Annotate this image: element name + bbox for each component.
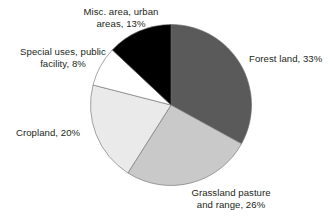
- pie-label-special-line1: Special uses, public: [20, 46, 106, 57]
- pie-chart: Misc. area, urban areas, 13% Special use…: [0, 0, 330, 222]
- pie-label-special-line2: facility, 8%: [40, 58, 86, 69]
- pie-label-misc-line1: Misc. area, urban: [84, 6, 159, 17]
- pie-label-misc-line2: areas, 13%: [96, 18, 145, 29]
- pie-label-grassland-line1: Grassland pasture: [191, 187, 270, 198]
- pie-label-grassland-pasture-and-range: Grassland pasture and range, 26%: [160, 187, 302, 212]
- pie-label-misc-area-urban-areas: Misc. area, urban areas, 13%: [62, 6, 180, 31]
- pie-label-grassland-line2: and range, 26%: [197, 199, 265, 210]
- pie-label-special-uses-public-facility: Special uses, public facility, 8%: [4, 46, 122, 71]
- pie-label-cropland: Cropland, 20%: [16, 127, 80, 139]
- pie-label-forest-land: Forest land, 33%: [249, 53, 322, 65]
